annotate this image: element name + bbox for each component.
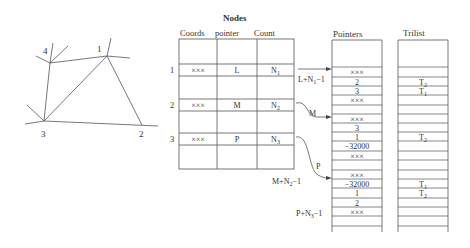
pointer-cell: −32000: [332, 142, 382, 151]
arrow-label-m-end: M+N2−1: [272, 178, 301, 187]
pointer-cell: ×××: [332, 115, 382, 124]
count-cell: N3: [257, 135, 294, 147]
pointer-cell: 3: [332, 87, 382, 96]
row-index: 1: [170, 66, 174, 75]
arrow-label-m: M: [309, 110, 316, 118]
pointer-cell: 2: [332, 78, 382, 87]
header-coords: Coords: [180, 29, 205, 38]
coords-cell: ×××: [179, 66, 217, 75]
pointer-cell: ×××: [332, 171, 382, 180]
header-pointer: pointer: [215, 29, 239, 38]
pointer-cell: ×××: [332, 208, 382, 217]
row-index: 3: [170, 135, 174, 144]
nodes-title: Nodes: [223, 14, 247, 23]
pointer-cell: 3: [332, 124, 382, 133]
trilist-cell: T1: [398, 87, 448, 99]
arrow-label-p-end: P+N3−1: [296, 210, 322, 219]
node-label-4: 4: [43, 46, 48, 56]
node-label-3: 3: [41, 129, 46, 139]
pointer-cell: L: [217, 66, 257, 75]
pointer-cell: 2: [332, 199, 382, 208]
header-count: Count: [254, 29, 275, 38]
node-label-2: 2: [139, 129, 144, 139]
trilist-cell: T2: [398, 189, 448, 201]
pointer-cell: 1: [332, 133, 382, 142]
row-index: 2: [170, 101, 174, 110]
count-cell: N1: [257, 66, 294, 78]
pointer-cell: ×××: [332, 68, 382, 77]
pointer-cell: 1: [332, 189, 382, 198]
pointer-cell: −32000: [332, 180, 382, 189]
pointer-cell: P: [217, 135, 257, 144]
pointer-cell: ×××: [332, 152, 382, 161]
trilist-cell: T2: [398, 133, 448, 145]
arrow-label-l: L+N1−1: [298, 76, 325, 85]
coords-cell: ×××: [179, 101, 217, 110]
count-cell: N2: [257, 101, 294, 113]
pointers-title: Pointers: [333, 30, 363, 39]
pointer-cell: ×××: [332, 96, 382, 105]
pointer-cell: M: [217, 101, 257, 110]
node-label-1: 1: [97, 44, 102, 54]
trilist-title: Trilist: [403, 29, 425, 38]
arrow-label-p: P: [316, 163, 320, 171]
coords-cell: ×××: [179, 135, 217, 144]
